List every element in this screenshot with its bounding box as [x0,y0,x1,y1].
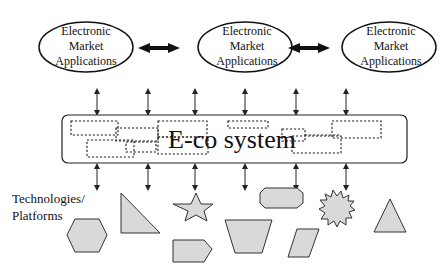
trapezoid-shape [225,220,272,253]
octagon-shape [260,188,303,208]
technologies-line2: Platforms [12,208,63,223]
parallelogram-shape [288,229,319,257]
application-3-line1: Electronic [366,24,415,38]
application-2-line2: Market [230,39,265,53]
triangle-shape [374,199,406,232]
bidirectional-arrow-icon [138,43,180,53]
application-node-3: Electronic Market Applications [342,22,436,72]
right-triangle-shape [121,193,160,233]
technologies-line1: Technologies/ [12,191,85,206]
technologies-label: Technologies/ Platforms [12,191,85,223]
application-3-line2: Market [374,39,409,53]
application-3-line3: Applications [360,54,422,68]
bidirectional-arrow-icon [288,43,330,53]
application-node-1: Electronic Market Applications [39,22,133,72]
ecosystem-label: E-co system [168,125,296,154]
starburst-shape [319,190,355,227]
hexagon-shape [67,219,107,252]
ecosystem-diagram: Electronic Market Applications Electroni… [0,0,440,271]
lower-connectors [97,166,346,188]
star-shape [173,193,213,221]
application-2-line1: Electronic [222,24,271,38]
application-2-line3: Applications [216,54,278,68]
pentagon-arrow-shape [173,240,212,262]
application-1-line3: Applications [55,54,117,68]
ecosystem-box: E-co system [62,115,407,163]
upper-connectors [97,91,346,113]
application-1-line2: Market [69,39,104,53]
application-1-line1: Electronic [61,24,110,38]
application-node-2: Electronic Market Applications [198,22,292,72]
